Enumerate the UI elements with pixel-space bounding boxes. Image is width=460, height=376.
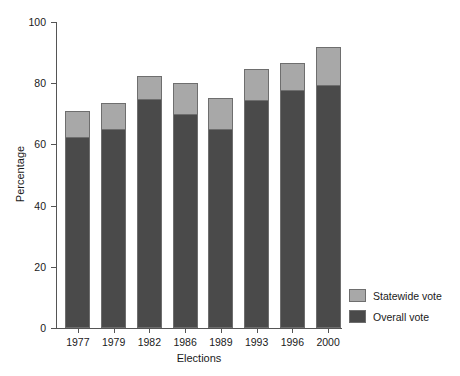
y-tick-label: 0: [40, 322, 46, 334]
bar-segment-statewide: [101, 103, 126, 129]
x-axis-title: Elections: [56, 352, 342, 364]
bar-1986: [173, 22, 198, 328]
bar-segment-statewide: [173, 83, 198, 114]
y-tick-label: 40: [34, 200, 46, 212]
x-tick-label: 1996: [281, 336, 304, 348]
x-tick-label: 1982: [138, 336, 161, 348]
bar-1979: [101, 22, 126, 328]
legend-label: Statewide vote: [373, 290, 442, 302]
x-tick: [257, 328, 258, 333]
bar-segment-statewide: [316, 47, 341, 84]
bar-1977: [65, 22, 90, 328]
legend-swatch: [349, 289, 366, 302]
bar-1996: [280, 22, 305, 328]
bar-chart: 020406080100 197719791982198619891993199…: [0, 0, 460, 376]
bar-1989: [208, 22, 233, 328]
x-tick: [149, 328, 150, 333]
x-axis-line: [56, 328, 342, 329]
y-tick: [51, 328, 56, 329]
x-tick: [114, 328, 115, 333]
bar-segment-statewide: [208, 98, 233, 130]
legend-swatch: [349, 310, 366, 323]
x-tick-label: 1989: [209, 336, 232, 348]
y-axis-title: Percentage: [14, 114, 26, 234]
bar-segment-overall: [280, 90, 305, 328]
x-tick-label: 1979: [102, 336, 125, 348]
bar-segment-statewide: [65, 111, 90, 137]
bar-2000: [316, 22, 341, 328]
x-tick-label: 1977: [66, 336, 89, 348]
x-tick: [78, 328, 79, 333]
legend-label: Overall vote: [373, 311, 429, 323]
bar-segment-statewide: [137, 76, 162, 98]
y-tick-label: 60: [34, 138, 46, 150]
bar-segment-overall: [137, 99, 162, 329]
x-tick-label: 2000: [316, 336, 339, 348]
plot-area: [56, 22, 342, 328]
y-tick-label: 80: [34, 77, 46, 89]
chart-legend: Statewide voteOverall vote: [349, 289, 442, 331]
legend-item: Overall vote: [349, 310, 442, 323]
bar-1982: [137, 22, 162, 328]
legend-item: Statewide vote: [349, 289, 442, 302]
x-tick: [292, 328, 293, 333]
bar-segment-overall: [208, 129, 233, 328]
x-tick: [328, 328, 329, 333]
bar-segment-statewide: [280, 63, 305, 91]
bar-segment-statewide: [244, 69, 269, 100]
x-tick: [185, 328, 186, 333]
x-tick: [221, 328, 222, 333]
bar-segment-overall: [173, 114, 198, 328]
x-tick-label: 1986: [173, 336, 196, 348]
bar-1993: [244, 22, 269, 328]
y-tick-label: 100: [28, 16, 46, 28]
bar-segment-overall: [65, 137, 90, 328]
bar-segment-overall: [244, 100, 269, 328]
bar-segment-overall: [101, 129, 126, 328]
y-tick-label: 20: [34, 261, 46, 273]
x-tick-label: 1993: [245, 336, 268, 348]
bar-segment-overall: [316, 85, 341, 328]
